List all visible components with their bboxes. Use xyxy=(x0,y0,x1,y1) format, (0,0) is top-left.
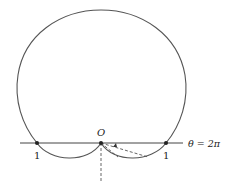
left-point-label: 1 xyxy=(34,151,40,161)
left-point xyxy=(35,141,39,145)
origin-point xyxy=(99,141,103,145)
dashed-ray-1 xyxy=(101,143,148,157)
right-point-label: 1 xyxy=(163,151,169,161)
outer-loop-curve xyxy=(17,10,186,143)
axis-label: θ = 2π xyxy=(188,139,220,149)
origin-label: O xyxy=(97,128,105,138)
angle-arrow-icon xyxy=(113,143,117,147)
left-lower-arc xyxy=(37,143,101,158)
right-point xyxy=(164,141,168,145)
